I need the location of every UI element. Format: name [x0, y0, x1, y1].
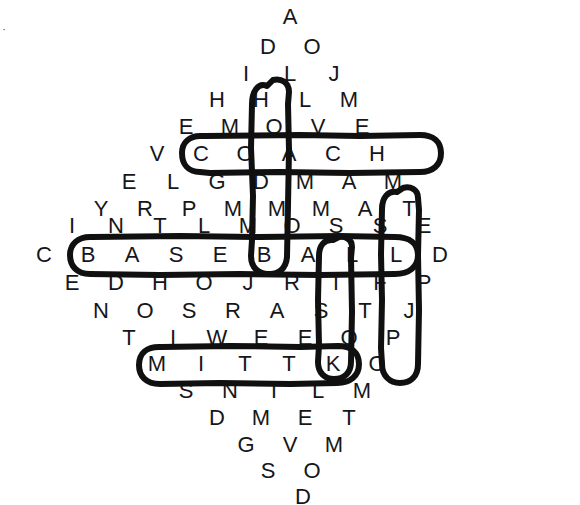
- grid-letter: D: [246, 167, 276, 197]
- grid-letter: S: [171, 376, 201, 406]
- word-search-puzzle: ADOILJHHLMEMOVEVCOACHELGDMAMYRPMMMATINTL…: [0, 0, 580, 505]
- grid-letter: N: [101, 211, 131, 241]
- grid-letter: M: [233, 211, 263, 241]
- grid-letter: A: [274, 139, 304, 169]
- grid-letter: T: [334, 403, 364, 433]
- grid-letter: D: [202, 403, 232, 433]
- grid-letter: J: [233, 268, 263, 298]
- grid-letter: L: [189, 211, 219, 241]
- grid-letter: O: [230, 139, 260, 169]
- grid-letter: L: [303, 376, 333, 406]
- grid-letter: O: [130, 296, 160, 326]
- grid-letter: J: [394, 296, 424, 326]
- grid-letter: C: [318, 139, 348, 169]
- letter-grid: ADOILJHHLMEMOVEVCOACHELGDMAMYRPMMMATINTL…: [0, 0, 580, 505]
- grid-letter: E: [114, 167, 144, 197]
- grid-letter: O: [362, 349, 392, 379]
- grid-letter: M: [215, 112, 245, 142]
- grid-letter: D: [425, 240, 455, 270]
- grid-letter: H: [362, 139, 392, 169]
- grid-letter: S: [365, 211, 395, 241]
- grid-letter: C: [29, 240, 59, 270]
- grid-letter: E: [171, 112, 201, 142]
- grid-letter: M: [142, 349, 172, 379]
- grid-letter: H: [145, 268, 175, 298]
- grid-letter: E: [205, 240, 235, 270]
- grid-letter: F: [365, 268, 395, 298]
- grid-letter: O: [189, 268, 219, 298]
- grid-letter: M: [290, 167, 320, 197]
- grid-letter: O: [259, 112, 289, 142]
- grid-letter: R: [218, 296, 248, 326]
- grid-letter: A: [262, 296, 292, 326]
- grid-letter: A: [117, 240, 147, 270]
- grid-letter: B: [249, 240, 279, 270]
- grid-letter: R: [277, 268, 307, 298]
- grid-letter: T: [321, 268, 351, 298]
- grid-letter: M: [378, 167, 408, 197]
- grid-letter: N: [215, 376, 245, 406]
- grid-letter: A: [334, 167, 364, 197]
- grid-letter: C: [186, 139, 216, 169]
- grid-letter: O: [277, 211, 307, 241]
- grid-letter: I: [57, 211, 87, 241]
- grid-letter: S: [321, 211, 351, 241]
- grid-letter: G: [202, 167, 232, 197]
- grid-letter: S: [306, 296, 336, 326]
- grid-letter: L: [337, 240, 367, 270]
- grid-letter: P: [409, 268, 439, 298]
- grid-letter: V: [303, 112, 333, 142]
- grid-letter: T: [145, 211, 175, 241]
- grid-letter: M: [246, 403, 276, 433]
- grid-letter: T: [230, 349, 260, 379]
- grid-letter: T: [114, 323, 144, 353]
- grid-letter: N: [86, 296, 116, 326]
- grid-letter: H: [202, 85, 232, 115]
- grid-letter: M: [347, 376, 377, 406]
- grid-letter: T: [259, 376, 289, 406]
- grid-letter: D: [288, 482, 318, 505]
- grid-letter: O: [297, 32, 327, 62]
- grid-letter: V: [142, 139, 172, 169]
- grid-letter: K: [318, 349, 348, 379]
- grid-letter: S: [174, 296, 204, 326]
- grid-letter: S: [161, 240, 191, 270]
- grid-letter: L: [381, 240, 411, 270]
- grid-letter: E: [290, 403, 320, 433]
- grid-letter: A: [275, 2, 305, 32]
- grid-letter: L: [290, 85, 320, 115]
- grid-letter: T: [350, 296, 380, 326]
- grid-letter: T: [274, 349, 304, 379]
- grid-letter: S: [253, 456, 283, 486]
- grid-letter: E: [57, 268, 87, 298]
- grid-letter: M: [334, 85, 364, 115]
- grid-letter: D: [253, 32, 283, 62]
- grid-letter: E: [347, 112, 377, 142]
- grid-letter: I: [186, 349, 216, 379]
- grid-letter: D: [101, 268, 131, 298]
- grid-letter: E: [409, 211, 439, 241]
- grid-letter: B: [73, 240, 103, 270]
- grid-letter: L: [158, 167, 188, 197]
- grid-letter: A: [293, 240, 323, 270]
- grid-letter: H: [246, 85, 276, 115]
